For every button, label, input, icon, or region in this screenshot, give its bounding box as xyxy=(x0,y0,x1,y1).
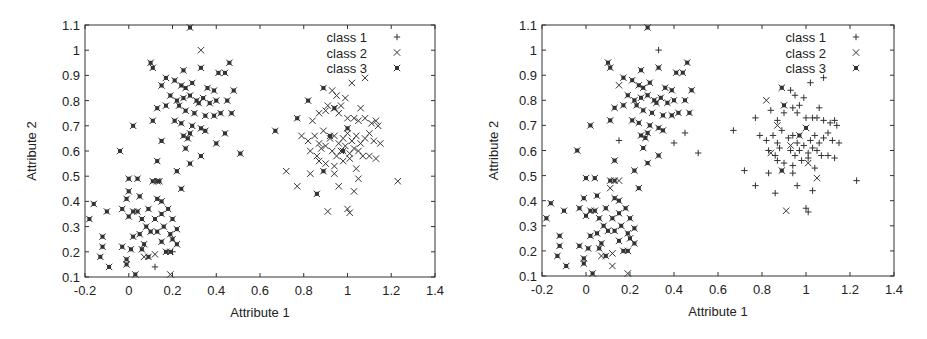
data-point-class-1 xyxy=(807,80,813,86)
data-point-class-3 xyxy=(616,238,622,244)
data-point-class-1 xyxy=(794,182,800,188)
x-tick-label: 0.4 xyxy=(665,282,683,297)
data-point-class-2 xyxy=(609,250,615,256)
data-point-class-1 xyxy=(730,127,736,133)
data-point-class-3 xyxy=(583,213,589,219)
data-point-class-3 xyxy=(680,69,686,75)
data-point-class-1 xyxy=(781,160,787,166)
data-point-class-1 xyxy=(752,115,758,121)
data-point-class-1 xyxy=(752,182,758,188)
data-point-class-3 xyxy=(620,102,626,108)
data-point-class-1 xyxy=(829,137,835,143)
data-point-class-3 xyxy=(669,112,675,118)
data-point-class-3 xyxy=(644,92,650,98)
data-point-class-1 xyxy=(792,92,798,98)
y-tick-label: 1.1 xyxy=(519,18,537,33)
data-point-class-3 xyxy=(611,157,617,163)
y-tick-label: 0.5 xyxy=(519,169,537,184)
data-point-class-1 xyxy=(781,110,787,116)
y-tick-label: 0.4 xyxy=(519,194,537,209)
data-point-class-3 xyxy=(625,92,631,98)
data-point-class-1 xyxy=(790,105,796,111)
plot-frame xyxy=(542,25,894,276)
data-point-class-3 xyxy=(631,225,637,231)
data-point-class-1 xyxy=(655,47,661,53)
y-tick-label: 0.1 xyxy=(519,269,537,284)
data-point-class-2 xyxy=(609,263,615,269)
x-tick-label: 1.2 xyxy=(841,282,859,297)
data-point-class-1 xyxy=(772,190,778,196)
data-point-class-3 xyxy=(594,230,600,236)
data-point-class-3 xyxy=(594,192,600,198)
data-point-class-1 xyxy=(818,152,824,158)
data-point-class-3 xyxy=(592,175,598,181)
data-point-class-1 xyxy=(807,137,813,143)
data-point-class-2 xyxy=(763,97,769,103)
data-point-class-1 xyxy=(790,170,796,176)
data-point-class-3 xyxy=(622,205,628,211)
data-point-class-1 xyxy=(792,152,798,158)
data-point-class-3 xyxy=(603,205,609,211)
data-point-class-3 xyxy=(627,215,633,221)
data-point-class-3 xyxy=(638,95,644,101)
data-point-class-3 xyxy=(655,152,661,158)
data-point-class-3 xyxy=(686,110,692,116)
data-point-class-3 xyxy=(576,205,582,211)
legend-marker-icon xyxy=(853,49,859,55)
data-point-class-3 xyxy=(611,228,617,234)
data-point-class-1 xyxy=(741,167,747,173)
data-point-class-3 xyxy=(583,175,589,181)
data-point-class-3 xyxy=(675,110,681,116)
data-point-class-3 xyxy=(655,64,661,70)
data-point-class-3 xyxy=(636,120,642,126)
data-point-class-3 xyxy=(592,208,598,214)
data-point-class-3 xyxy=(647,122,653,128)
data-point-class-3 xyxy=(611,177,617,183)
data-point-class-1 xyxy=(816,105,822,111)
data-point-class-1 xyxy=(796,147,802,153)
data-point-class-3 xyxy=(684,59,690,65)
data-point-class-1 xyxy=(695,150,701,156)
data-point-class-3 xyxy=(576,243,582,249)
data-point-class-3 xyxy=(611,105,617,111)
data-point-class-3 xyxy=(596,215,602,221)
data-point-class-1 xyxy=(812,132,818,138)
data-point-class-2 xyxy=(814,175,820,181)
data-point-class-1 xyxy=(820,135,826,141)
legend-marker-icon xyxy=(853,34,859,40)
data-point-class-3 xyxy=(638,67,644,73)
data-point-class-1 xyxy=(836,140,842,146)
y-tick-label: 1 xyxy=(530,43,537,58)
data-point-class-3 xyxy=(620,75,626,81)
data-point-class-3 xyxy=(609,215,615,221)
data-point-class-1 xyxy=(803,115,809,121)
data-point-class-1 xyxy=(801,95,807,101)
data-point-class-2 xyxy=(616,82,622,88)
legend-label: class 3 xyxy=(786,61,826,76)
data-point-class-3 xyxy=(662,85,668,91)
data-point-class-3 xyxy=(636,185,642,191)
data-point-class-3 xyxy=(618,223,624,229)
y-tick-label: 0.8 xyxy=(519,93,537,108)
data-point-class-3 xyxy=(796,132,802,138)
data-point-class-3 xyxy=(629,117,635,123)
figure: -0.200.20.40.60.811.21.40.10.20.30.40.50… xyxy=(0,0,927,339)
data-point-class-3 xyxy=(658,95,664,101)
data-point-class-3 xyxy=(543,215,549,221)
data-point-class-3 xyxy=(669,87,675,93)
data-point-class-3 xyxy=(649,110,655,116)
y-axis-label: Attribute 2 xyxy=(486,121,501,180)
data-point-class-3 xyxy=(548,200,554,206)
data-point-class-1 xyxy=(825,152,831,158)
data-point-class-1 xyxy=(831,155,837,161)
data-point-class-3 xyxy=(605,228,611,234)
data-point-class-3 xyxy=(563,263,569,269)
data-point-class-1 xyxy=(820,117,826,123)
data-point-class-3 xyxy=(631,167,637,173)
data-point-class-1 xyxy=(768,107,774,113)
legend: class 1class 2class 3 xyxy=(786,30,860,76)
data-point-class-3 xyxy=(574,147,580,153)
data-point-class-3 xyxy=(587,233,593,239)
data-point-class-1 xyxy=(770,132,776,138)
data-point-class-3 xyxy=(556,243,562,249)
